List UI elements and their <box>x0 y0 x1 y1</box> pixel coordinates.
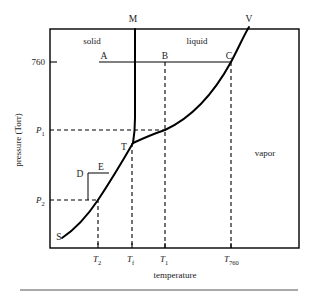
phase-diagram-figure: 760 P1 P2 T2 Tf T1 T760 temperature pres… <box>0 0 318 298</box>
point-label-d: D <box>77 169 84 179</box>
point-label-v: V <box>246 14 253 24</box>
xtick-label-t2: T2 <box>93 254 101 266</box>
ytick-label-p2: P2 <box>35 195 45 207</box>
x-axis-title: temperature <box>154 270 197 280</box>
y-axis-title: pressure (Torr) <box>13 113 23 167</box>
xtick-label-tf: Tf <box>127 254 135 266</box>
ytick-label-760: 760 <box>32 57 46 67</box>
region-label-solid: solid <box>83 36 101 46</box>
point-label-c: C <box>226 51 232 61</box>
xtick-label-t1: T1 <box>160 254 168 266</box>
point-label-m: M <box>129 14 138 24</box>
melting-curve <box>133 29 135 143</box>
region-label-liquid: liquid <box>186 36 208 46</box>
point-label-e: E <box>98 162 104 172</box>
point-label-s: S <box>56 232 61 242</box>
region-label-vapor: vapor <box>255 148 276 158</box>
phase-diagram-svg: 760 P1 P2 T2 Tf T1 T760 temperature pres… <box>0 0 318 298</box>
point-label-b: B <box>162 51 168 61</box>
xtick-label-t760: T760 <box>224 254 239 266</box>
point-label-t: T <box>121 142 127 152</box>
ytick-label-p1: P1 <box>35 125 45 137</box>
point-label-a: A <box>101 51 108 61</box>
